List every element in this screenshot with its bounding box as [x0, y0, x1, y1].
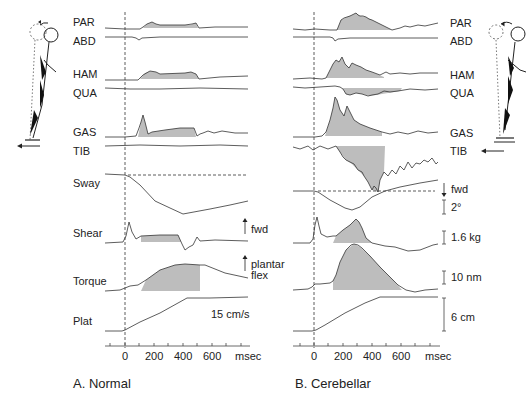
ham-shade-b — [326, 57, 384, 78]
label-par: PAR — [73, 16, 95, 28]
tick-600-b: 600 — [392, 350, 410, 362]
label-abd: ABD — [73, 35, 96, 47]
fwd-down-arrow-icon — [442, 183, 447, 197]
label-abd-b: ABD — [450, 35, 473, 47]
torque-shade-b — [333, 244, 402, 290]
tick-600-a: 600 — [203, 350, 221, 362]
abd-trace-a — [105, 37, 248, 40]
scale-bar-torque — [442, 271, 446, 284]
label-sway: Sway — [73, 177, 100, 189]
panel-b: fwd 2° 1.6 kg 10 nm 6 cm PAR ABD HAM — [293, 12, 526, 391]
annotation-flex: flex — [251, 269, 269, 281]
stick-figure-normal-icon — [17, 20, 58, 149]
axis-unit-a: msec — [235, 350, 262, 362]
scale-bar-plat — [442, 298, 446, 331]
abd-trace-b — [293, 37, 438, 41]
shear-trace-b — [293, 217, 438, 251]
label-gas-b: GAS — [450, 127, 473, 139]
par-shade-b — [337, 13, 392, 30]
stick-figure-cerebellar-icon — [481, 22, 526, 154]
label-shear: Shear — [73, 227, 103, 239]
panel-a: PAR ABD HAM QUA GAS TIB Sway Shear Torqu… — [17, 12, 285, 391]
panel-title-a: A. Normal — [73, 376, 131, 391]
time-axis-a: 0 200 400 600 msec — [105, 343, 262, 362]
label-plat: Plat — [73, 315, 92, 327]
label-ham-b: HAM — [450, 69, 474, 81]
annotation-fwd-a: fwd — [251, 223, 268, 235]
sway-trace-a — [105, 174, 248, 214]
tib-trace-a — [105, 145, 248, 146]
axis-unit-b: msec — [425, 350, 452, 362]
label-tib: TIB — [73, 145, 90, 157]
label-qua-b: QUA — [450, 87, 475, 99]
fwd-up-arrow-icon — [243, 218, 248, 234]
label-gas: GAS — [73, 126, 96, 138]
scale-label-sway: 2° — [451, 201, 462, 213]
label-ham: HAM — [73, 68, 97, 80]
scale-bar-sway — [442, 200, 446, 214]
figure-canvas: PAR ABD HAM QUA GAS TIB Sway Shear Torqu… — [0, 0, 530, 400]
label-torque: Torque — [73, 275, 107, 287]
plat-trace-b — [293, 297, 438, 331]
label-qua: QUA — [73, 87, 98, 99]
scale-label-plat: 6 cm — [451, 311, 475, 323]
tick-400-b: 400 — [363, 350, 381, 362]
time-axis-b: 0 200 400 600 msec — [293, 343, 452, 362]
tick-200-b: 200 — [334, 350, 352, 362]
tick-400-a: 400 — [174, 350, 192, 362]
scale-label-torque: 10 nm — [451, 271, 482, 283]
panel-title-b: B. Cerebellar — [295, 376, 372, 391]
annotation-velocity: 15 cm/s — [211, 308, 250, 320]
plantar-up-arrow-icon — [243, 255, 248, 271]
tick-200-a: 200 — [145, 350, 163, 362]
annotation-fwd-b: fwd — [451, 183, 468, 195]
scale-bar-shear — [442, 231, 446, 244]
label-tib-b: TIB — [450, 145, 467, 157]
tick-0-b: 0 — [311, 350, 317, 362]
sway-trace-b — [293, 180, 438, 210]
scale-label-shear: 1.6 kg — [451, 231, 481, 243]
tick-0-a: 0 — [122, 350, 128, 362]
gas-shade-a — [138, 115, 196, 137]
tib-shade-b — [336, 146, 385, 192]
label-par-b: PAR — [450, 17, 472, 29]
qua-trace-a — [105, 88, 248, 89]
